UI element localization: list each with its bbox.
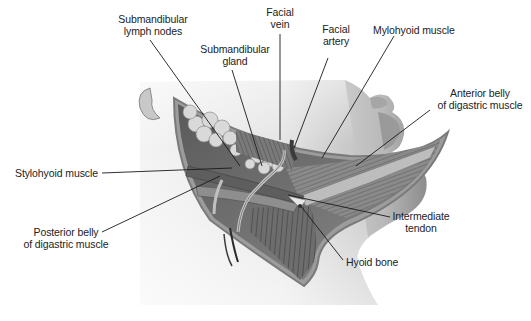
label-line: Submandibular <box>190 43 280 55</box>
label-submandibular-lymph-nodes: Submandibular lymph nodes <box>108 13 198 37</box>
label-line: Anterior belly <box>428 87 531 99</box>
anatomy-figure: Submandibular lymph nodes Submandibular … <box>0 0 531 321</box>
label-line: Stylohyoid muscle <box>15 167 98 179</box>
label-line: Hyoid bone <box>346 256 398 268</box>
label-line: tendon <box>390 222 452 234</box>
label-line: of digastric muscle <box>20 238 112 250</box>
label-mylohyoid-muscle: Mylohyoid muscle <box>373 24 455 36</box>
label-posterior-belly-digastric: Posterior belly of digastric muscle <box>20 226 112 250</box>
label-line: Intermediate <box>390 210 452 222</box>
label-line: artery <box>316 35 356 47</box>
label-line: Submandibular <box>108 13 198 25</box>
label-line: of digastric muscle <box>428 99 531 111</box>
label-facial-artery: Facial artery <box>316 23 356 47</box>
label-hyoid-bone: Hyoid bone <box>346 256 398 268</box>
label-stylohyoid-muscle: Stylohyoid muscle <box>15 167 98 179</box>
label-anterior-belly-digastric: Anterior belly of digastric muscle <box>428 87 531 111</box>
label-line: Facial <box>316 23 356 35</box>
label-line: Posterior belly <box>20 226 112 238</box>
label-line: lymph nodes <box>108 25 198 37</box>
label-facial-vein: Facial vein <box>262 6 298 30</box>
label-line: gland <box>190 55 280 67</box>
label-line: vein <box>262 18 298 30</box>
label-intermediate-tendon: Intermediate tendon <box>390 210 452 234</box>
label-line: Mylohyoid muscle <box>373 24 455 36</box>
label-submandibular-gland: Submandibular gland <box>190 43 280 67</box>
label-line: Facial <box>262 6 298 18</box>
